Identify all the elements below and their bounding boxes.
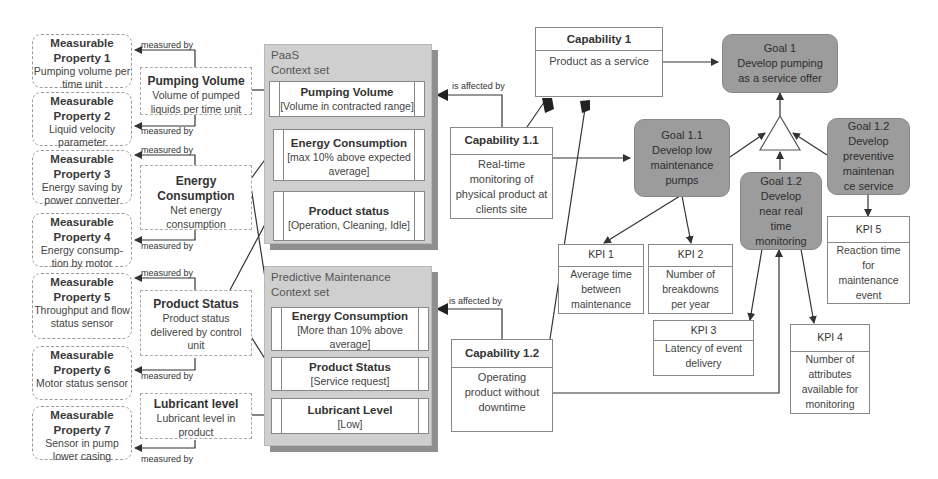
measured-by-label: measured by — [141, 145, 193, 155]
kpi-4[interactable]: KPI 4 Number of attributes available for… — [790, 324, 870, 414]
goal-1-2-preventive[interactable]: Goal 1.2 Develop preventive maintenan ce… — [827, 118, 910, 195]
mp-desc: Pumping volume per time unit — [33, 65, 131, 91]
context-item-value: [Operation, Cleaning, Idle] — [274, 219, 424, 233]
context-item-energy-consumption[interactable]: Energy Consumption [max 10% above expect… — [273, 129, 425, 181]
mp-title: Measurable Property 7 — [33, 408, 131, 437]
context-item-value: [max 10% above expected average] — [286, 151, 412, 178]
kpi-5[interactable]: KPI 5 Reaction time for maintenance even… — [827, 216, 910, 304]
context-item-title: Lubricant Level — [272, 403, 428, 418]
attribute-desc: Net energy consumption — [141, 204, 251, 231]
goal-id: Goal 1.2 — [836, 119, 901, 134]
context-item-title: Pumping Volume — [270, 85, 424, 100]
goal-desc: Develop pumping as a service offer — [731, 56, 829, 86]
kpi-title: KPI 2 — [649, 245, 732, 267]
measured-by-label: measured by — [141, 454, 193, 464]
capability-title: Capability 1.2 — [452, 340, 552, 368]
capability-1-1[interactable]: Capability 1.1 Real-time monitoring of p… — [450, 127, 553, 219]
kpi-desc: Reaction time for maintenance event — [828, 243, 909, 303]
goal-1-1[interactable]: Goal 1.1 Develop low maintenance pumps — [634, 119, 730, 197]
mp-title: Measurable Property 2 — [33, 94, 131, 123]
attribute-desc: Product status delivered by control unit — [141, 312, 251, 353]
mp-title: Measurable Property 1 — [33, 36, 131, 65]
attribute-lubricant-level[interactable]: Lubricant level Lubricant level in produ… — [140, 393, 252, 439]
goal-1[interactable]: Goal 1 Develop pumping as a service offe… — [722, 34, 838, 93]
measured-by-label: measured by — [141, 40, 193, 50]
capability-desc: Product as a service — [536, 51, 662, 69]
kpi-desc: Latency of event delivery — [654, 341, 753, 371]
mp-title: Measurable Property 3 — [33, 152, 131, 181]
kpi-title: KPI 1 — [559, 245, 643, 267]
kpi-3[interactable]: KPI 3 Latency of event delivery — [653, 320, 754, 376]
measurable-property-6[interactable]: Measurable Property 6 Motor status senso… — [32, 346, 132, 400]
attribute-pumping-volume[interactable]: Pumping Volume Volume of pumped liquids … — [140, 67, 252, 115]
capability-title: Capability 1.1 — [451, 128, 552, 155]
kpi-2[interactable]: KPI 2 Number of breakdowns per year — [648, 244, 733, 314]
is-affected-by-label: is affected by — [452, 81, 505, 91]
context-set-title-line2: Context set — [271, 63, 329, 78]
context-item-product-status[interactable]: Product status [Operation, Cleaning, Idl… — [273, 191, 425, 241]
context-set-predictive-maintenance[interactable]: Predictive Maintenance Context set Energ… — [264, 266, 432, 446]
kpi-1[interactable]: KPI 1 Average time between maintenance — [558, 244, 644, 314]
kpi-desc: Average time between maintenance — [559, 267, 643, 312]
goal-id: Goal 1.1 — [641, 128, 723, 143]
attribute-title: Product Status — [141, 297, 251, 312]
context-item-value: [Service request] — [272, 375, 428, 389]
context-item-title: Energy Consumption — [286, 136, 412, 151]
context-item-pumping-volume[interactable]: Pumping Volume [Volume in contracted ran… — [269, 81, 425, 117]
kpi-title: KPI 3 — [654, 321, 753, 341]
goal-id: Goal 1.2 — [751, 174, 811, 189]
attribute-desc: Volume of pumped liquids per time unit — [141, 89, 251, 116]
measured-by-label: measured by — [141, 126, 193, 136]
mp-desc: Sensor in pump lower casing — [33, 437, 131, 463]
goal-desc: Develop preventive maintenan ce service — [836, 134, 901, 194]
capability-1[interactable]: Capability 1 Product as a service — [535, 27, 663, 97]
goal-desc: Develop low maintenance pumps — [641, 143, 723, 188]
mp-title: Measurable Property 5 — [33, 275, 131, 304]
is-affected-by-label: is affected by — [449, 296, 502, 306]
mp-desc: Energy consump-tion by motor — [33, 244, 131, 270]
goal-1-2-near-real-time[interactable]: Goal 1.2 Develop near real time monitori… — [740, 172, 822, 250]
context-item-product-status[interactable]: Product Status [Service request] — [271, 357, 429, 391]
mp-desc: Throughput and flow status sensor — [33, 304, 131, 330]
attribute-title: Energy Consumption — [141, 174, 251, 204]
goal-desc: Develop near real time monitoring — [751, 189, 811, 249]
context-set-title-line2: Context set — [271, 285, 391, 300]
kpi-title: KPI 5 — [828, 217, 909, 243]
context-item-lubricant-level[interactable]: Lubricant Level [Low] — [271, 398, 429, 434]
attribute-product-status[interactable]: Product Status Product status delivered … — [140, 290, 252, 356]
capability-desc: Real-time monitoring of physical product… — [451, 155, 552, 217]
mp-desc: Liquid velocity parameter — [33, 123, 131, 149]
measurable-property-3[interactable]: Measurable Property 3 Energy saving by p… — [32, 150, 132, 204]
context-set-title: PaaS Context set — [271, 48, 329, 78]
context-set-title-line1: Predictive Maintenance — [271, 270, 391, 285]
measured-by-label: measured by — [141, 371, 193, 381]
context-item-title: Product Status — [272, 360, 428, 375]
measurable-property-7[interactable]: Measurable Property 7 Sensor in pump low… — [32, 406, 132, 460]
capability-desc: Operating product without downtime — [452, 368, 552, 415]
context-item-energy-consumption[interactable]: Energy Consumption [More than 10% above … — [271, 307, 429, 351]
context-set-title-line1: PaaS — [271, 48, 329, 63]
mp-desc: Energy saving by power converter — [33, 181, 131, 207]
mp-title: Measurable Property 6 — [33, 348, 131, 377]
attribute-title: Pumping Volume — [141, 74, 251, 89]
kpi-title: KPI 4 — [791, 325, 869, 352]
attribute-energy-consumption[interactable]: Energy Consumption Net energy consumptio… — [140, 165, 252, 230]
measurable-property-4[interactable]: Measurable Property 4 Energy consump-tio… — [32, 213, 132, 267]
kpi-desc: Number of breakdowns per year — [649, 267, 732, 312]
measurable-property-2[interactable]: Measurable Property 2 Liquid velocity pa… — [32, 92, 132, 146]
context-item-value: [More than 10% above average] — [286, 324, 414, 351]
context-set-paas[interactable]: PaaS Context set Pumping Volume [Volume … — [264, 44, 432, 244]
mp-title: Measurable Property 4 — [33, 215, 131, 244]
measurable-property-5[interactable]: Measurable Property 5 Throughput and flo… — [32, 273, 132, 339]
context-item-title: Energy Consumption — [286, 309, 414, 324]
goal-id: Goal 1 — [731, 41, 829, 56]
kpi-desc: Number of attributes available for monit… — [791, 352, 869, 412]
mp-desc: Motor status sensor — [33, 377, 131, 390]
capability-1-2[interactable]: Capability 1.2 Operating product without… — [451, 339, 553, 432]
attribute-title: Lubricant level — [141, 397, 251, 412]
context-set-title: Predictive Maintenance Context set — [271, 270, 391, 300]
measured-by-label: measured by — [141, 241, 193, 251]
context-item-title: Product status — [274, 204, 424, 219]
measurable-property-1[interactable]: Measurable Property 1 Pumping volume per… — [32, 34, 132, 88]
measured-by-label: measured by — [141, 268, 193, 278]
